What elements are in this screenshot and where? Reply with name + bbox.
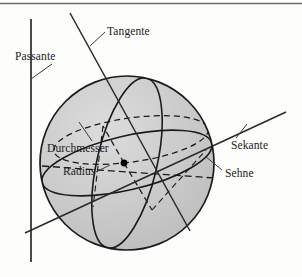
passante-leader-line <box>31 64 52 79</box>
tangente-leader-line <box>90 32 105 46</box>
label-passante: Passante <box>15 51 55 63</box>
label-tangente: Tangente <box>107 26 150 38</box>
label-sekante: Sekante <box>231 140 268 152</box>
label-durchmesser: Durchmesser <box>47 143 109 155</box>
label-radius: Radius <box>63 166 96 178</box>
label-sehne: Sehne <box>225 168 254 180</box>
sphere-center-point <box>121 160 128 167</box>
geometry-figure-sphere: Passante Tangente Durchmesser Radius Sek… <box>0 0 302 277</box>
